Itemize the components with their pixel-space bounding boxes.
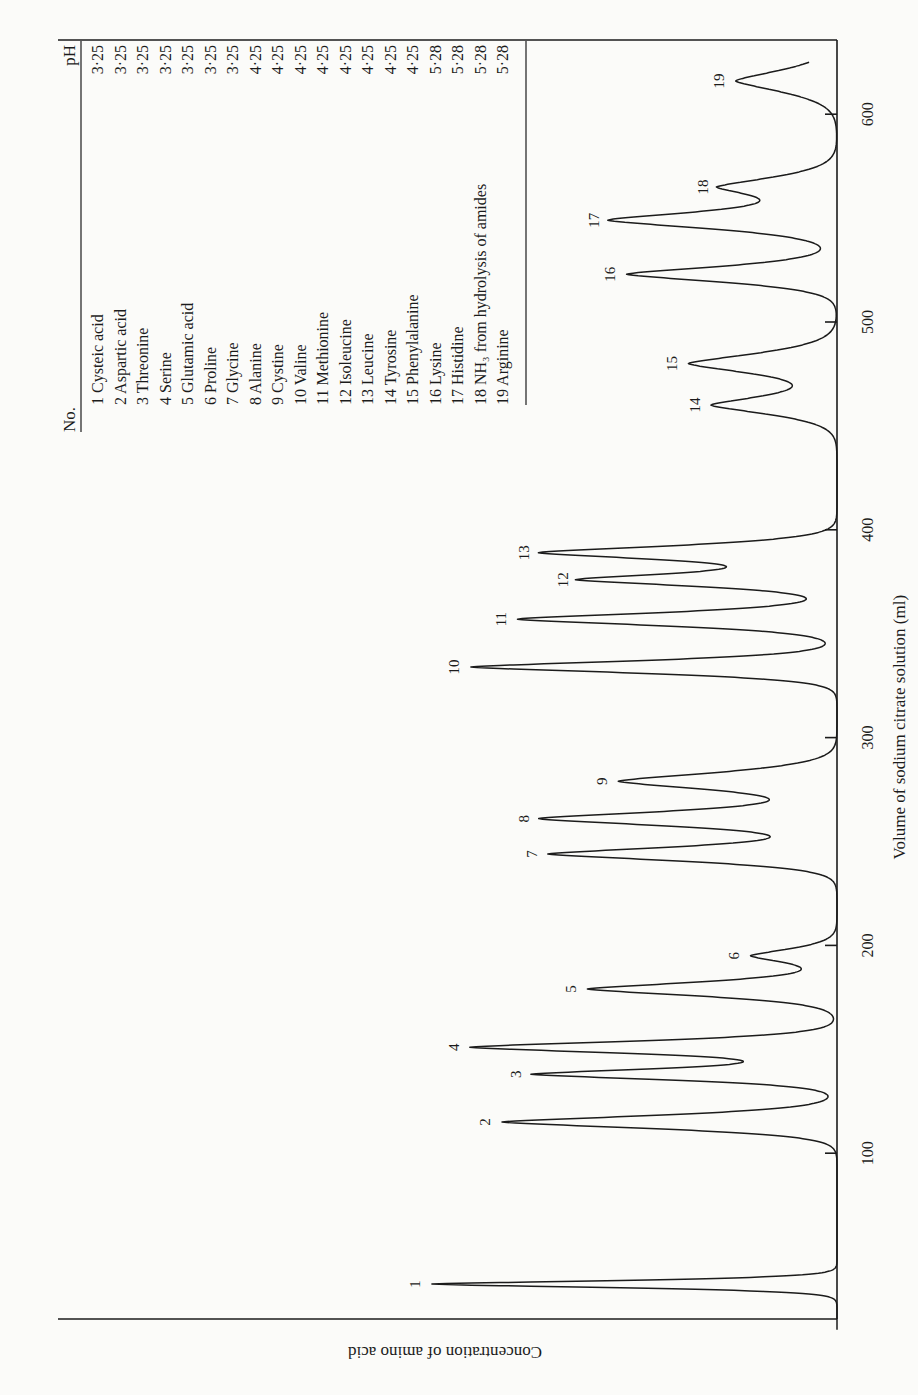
peak-number-label: 7 bbox=[524, 850, 540, 858]
row-label: 5 Glutamic acid bbox=[179, 303, 196, 405]
row-ph: 5·28 bbox=[494, 45, 511, 74]
table-row: 13 Leucine4·25 bbox=[359, 45, 376, 405]
chromatogram-trace bbox=[432, 62, 837, 1330]
row-ph: 4·25 bbox=[247, 45, 264, 74]
table-row: 15 Phenylalanine4·25 bbox=[404, 45, 422, 405]
row-label: 13 Leucine bbox=[359, 333, 376, 405]
row-label: 6 Proline bbox=[202, 347, 219, 405]
table-row: 3 Threonine3·25 bbox=[134, 45, 151, 405]
row-ph: 3·25 bbox=[134, 45, 151, 74]
peak-number-label: 18 bbox=[695, 179, 711, 194]
table-row: 17 Histidine5·28 bbox=[449, 45, 466, 405]
row-ph: 5·28 bbox=[449, 45, 466, 74]
volume-axis-ticks: 100200300400500600 bbox=[825, 102, 876, 1165]
row-ph: 4·25 bbox=[404, 45, 421, 74]
table-row: 19 Arginine5·28 bbox=[494, 45, 512, 405]
peak-number-label: 6 bbox=[726, 952, 742, 960]
row-ph: 3·25 bbox=[157, 45, 174, 74]
peak-number-label: 12 bbox=[555, 572, 571, 587]
row-ph: 3·25 bbox=[224, 45, 241, 74]
table-header-ph: pH bbox=[60, 45, 79, 66]
row-label: 15 Phenylalanine bbox=[404, 294, 422, 405]
row-label: 12 Isoleucine bbox=[337, 319, 354, 405]
row-label: 9 Cystine bbox=[269, 344, 287, 405]
axes-frame bbox=[58, 40, 837, 1319]
row-label: 1 Cysteic acid bbox=[89, 314, 107, 405]
table-row: 6 Proline3·25 bbox=[202, 45, 219, 405]
peak-number-label: 1 bbox=[407, 1280, 423, 1288]
table-header-no: No. bbox=[60, 407, 79, 432]
row-label: 17 Histidine bbox=[449, 326, 466, 405]
peak-number-label: 11 bbox=[493, 612, 509, 626]
tick-label: 500 bbox=[859, 310, 876, 334]
peak-number-label: 8 bbox=[516, 815, 532, 823]
chromatogram-plot: 100200300400500600 123456789101112131415… bbox=[0, 0, 918, 1395]
chromatogram-figure: 100200300400500600 123456789101112131415… bbox=[0, 0, 918, 1395]
peak-number-label: 14 bbox=[687, 397, 703, 413]
row-ph: 4·25 bbox=[314, 45, 331, 74]
peak-labels: 12345678910111213141516171819 bbox=[407, 73, 742, 1287]
row-label: 19 Arginine bbox=[494, 329, 512, 405]
trace-path bbox=[432, 62, 837, 1330]
row-ph: 4·25 bbox=[292, 45, 309, 74]
table-row: 2 Aspartic acid3·25 bbox=[112, 45, 130, 405]
legend-table: No.pH1 Cysteic acid3·252 Aspartic acid3·… bbox=[60, 41, 526, 432]
row-ph: 4·25 bbox=[382, 45, 399, 74]
peak-number-label: 17 bbox=[586, 212, 602, 228]
row-label: 11 Methionine bbox=[314, 312, 331, 405]
tick-label: 200 bbox=[859, 933, 876, 957]
table-row: 9 Cystine4·25 bbox=[269, 45, 287, 405]
peak-number-label: 15 bbox=[664, 356, 680, 371]
row-label: 4 Serine bbox=[157, 352, 174, 405]
row-ph: 5·28 bbox=[472, 45, 489, 74]
row-ph: 3·25 bbox=[202, 45, 219, 74]
row-label: 10 Valine bbox=[292, 344, 309, 405]
row-ph: 3·25 bbox=[112, 45, 129, 74]
row-ph: 4·25 bbox=[269, 45, 286, 74]
row-label: 7 Glycine bbox=[224, 342, 242, 405]
peak-number-label: 13 bbox=[516, 545, 532, 560]
x-axis-title: Volume of sodium citrate solution (ml) bbox=[890, 595, 909, 860]
peak-number-label: 10 bbox=[446, 659, 462, 674]
tick-label: 600 bbox=[859, 102, 876, 126]
table-row: 4 Serine3·25 bbox=[157, 45, 174, 405]
table-row: 1 Cysteic acid3·25 bbox=[89, 45, 107, 405]
row-label: 2 Aspartic acid bbox=[112, 309, 130, 405]
y-axis-title: Concentration of amino acid bbox=[347, 1343, 542, 1362]
table-row: 12 Isoleucine4·25 bbox=[337, 45, 354, 405]
table-row: 14 Tyrosine4·25 bbox=[382, 45, 400, 405]
row-ph: 3·25 bbox=[179, 45, 196, 74]
row-ph: 3·25 bbox=[89, 45, 106, 74]
row-label: 18 NH₃ from hydrolysis of amides bbox=[472, 184, 490, 405]
row-ph: 4·25 bbox=[337, 45, 354, 74]
peak-number-label: 3 bbox=[508, 1070, 524, 1078]
peak-number-label: 19 bbox=[711, 73, 727, 88]
row-ph: 5·28 bbox=[427, 45, 444, 74]
table-row: 11 Methionine4·25 bbox=[314, 45, 331, 405]
tick-label: 100 bbox=[859, 1141, 876, 1165]
row-ph: 4·25 bbox=[359, 45, 376, 74]
row-label: 14 Tyrosine bbox=[382, 330, 400, 405]
row-label: 8 Alanine bbox=[247, 343, 264, 405]
table-row: 5 Glutamic acid3·25 bbox=[179, 45, 196, 405]
axis-titles: Volume of sodium citrate solution (ml) C… bbox=[347, 595, 909, 1362]
peak-number-label: 9 bbox=[594, 777, 610, 785]
tick-label: 300 bbox=[859, 726, 876, 750]
row-label: 16 Lysine bbox=[427, 342, 445, 405]
tick-label: 400 bbox=[859, 518, 876, 542]
table-row: 7 Glycine3·25 bbox=[224, 45, 242, 405]
peak-number-label: 2 bbox=[477, 1118, 493, 1126]
table-row: 8 Alanine4·25 bbox=[247, 45, 264, 405]
peak-number-label: 5 bbox=[563, 985, 579, 993]
table-row: 16 Lysine5·28 bbox=[427, 45, 445, 405]
peak-number-label: 4 bbox=[446, 1043, 462, 1051]
peak-number-label: 16 bbox=[602, 266, 618, 282]
table-row: 10 Valine4·25 bbox=[292, 45, 309, 405]
table-row: 18 NH₃ from hydrolysis of amides5·28 bbox=[472, 45, 490, 405]
row-label: 3 Threonine bbox=[134, 328, 151, 405]
